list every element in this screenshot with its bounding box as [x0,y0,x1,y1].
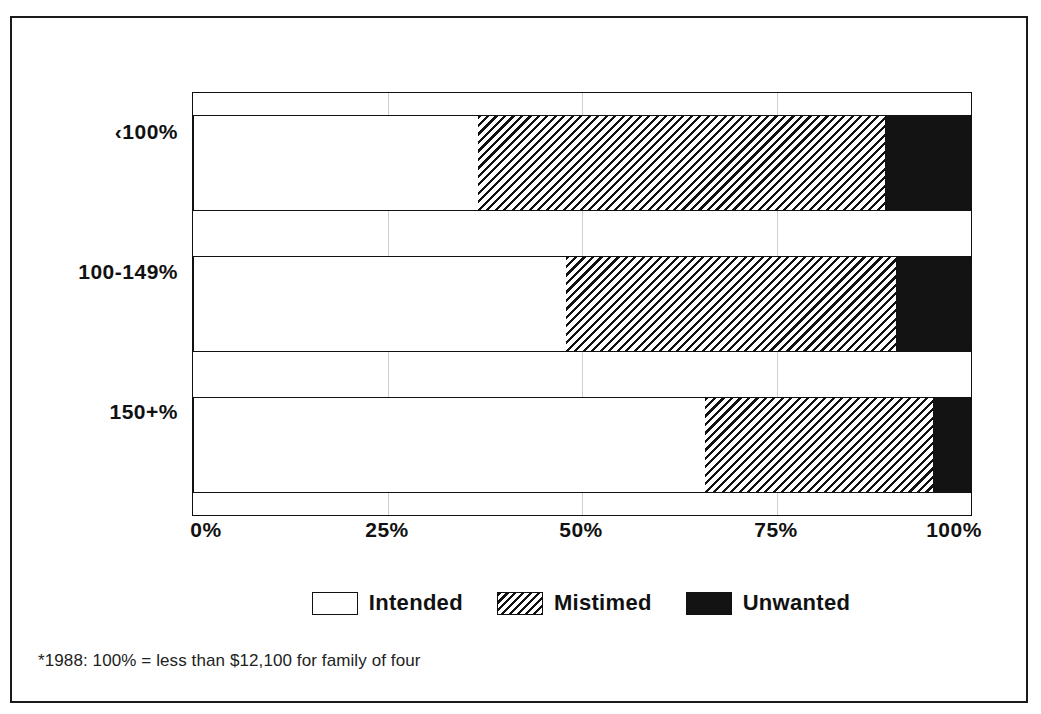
legend-item-intended: Intended [312,590,463,616]
chart-figure: ‹100% 100-149% 150+% 0% 25% 50% [10,16,1028,703]
bar-segment-unwanted [933,397,971,493]
y-axis-label-2: 150+% [110,400,178,424]
black-swatch-icon [686,592,732,615]
x-axis-tick-50: 50% [559,518,603,542]
x-axis-tick-100: 100% [926,518,982,542]
bar-segment-intended [193,256,566,352]
bar-row [193,256,971,352]
y-axis-labels: ‹100% 100-149% 150+% [12,92,178,514]
x-axis-tick-0: 0% [190,518,221,542]
bar-segment-unwanted [885,115,971,211]
bar-segment-intended [193,115,478,211]
x-axis-tick-75: 75% [754,518,798,542]
y-axis-label-1: 100-149% [78,260,178,284]
legend-label-mistimed: Mistimed [554,590,652,616]
bar-segment-unwanted [896,256,971,352]
chart-footnote: *1988: 100% = less than $12,100 for fami… [38,651,421,671]
bar-segment-intended [193,397,705,493]
plot-area [192,92,972,516]
bar-segment-mistimed [566,256,896,352]
x-axis-tick-25: 25% [365,518,409,542]
hatched-swatch-icon [497,592,543,615]
bar-segment-mistimed [705,397,933,493]
legend-item-unwanted: Unwanted [686,590,851,616]
white-swatch-icon [312,592,358,615]
bar-row [193,115,971,211]
chart-legend: Intended Mistimed Unwanted [192,583,970,623]
legend-label-intended: Intended [369,590,463,616]
legend-label-unwanted: Unwanted [743,590,851,616]
bar-segment-mistimed [478,115,886,211]
legend-item-mistimed: Mistimed [497,590,652,616]
bar-row [193,397,971,493]
x-axis-labels: 0% 25% 50% 75% 100% [192,518,970,550]
y-axis-label-0: ‹100% [115,120,178,144]
